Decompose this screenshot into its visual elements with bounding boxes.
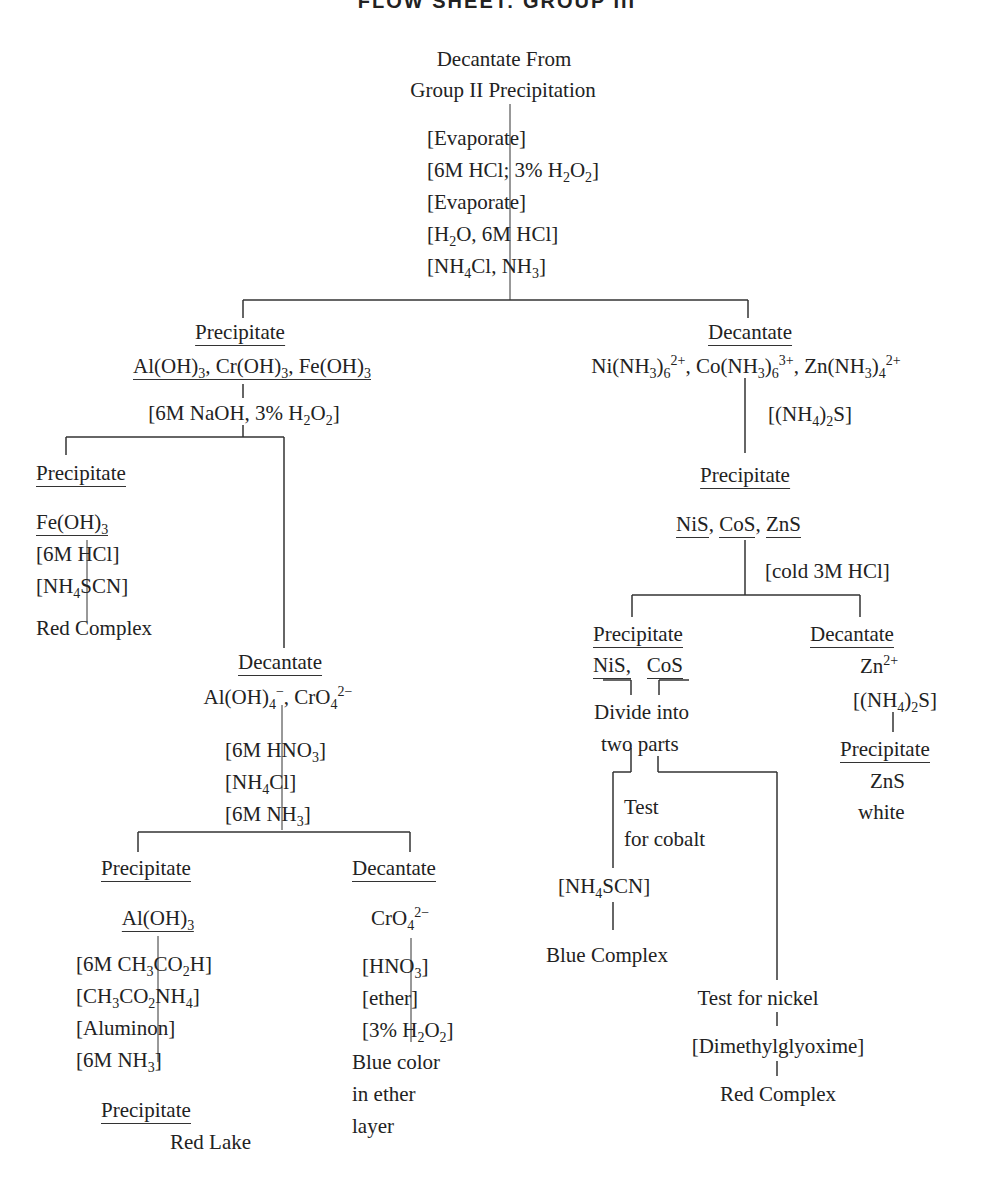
reagent-water-hcl: [H2O, 6M HCl]: [427, 222, 558, 246]
reagent-zinc-ammonium-sulfide: [(NH4)2S]: [853, 688, 937, 712]
reagent-naoh-peroxide: [6M NaOH, 3% H2O2]: [148, 401, 339, 425]
result-white: white: [858, 800, 905, 824]
result-red-complex-nickel: Red Complex: [720, 1082, 836, 1106]
species-aluminate-chromate: Al(OH)4−, CrO42−: [204, 685, 353, 709]
label-precipitate-nis-cos: Precipitate: [593, 622, 683, 648]
result-iron-red-complex: Red Complex: [36, 616, 152, 640]
species-zinc-ion: Zn2+: [860, 654, 898, 678]
species-nis-cos: NiS, CoS: [593, 653, 683, 677]
result-blue-color-3: layer: [352, 1114, 394, 1138]
label-decantate-ammines: Decantate: [708, 320, 792, 346]
label-precipitate-aluminum: Precipitate: [101, 856, 191, 882]
label-decantate-al-cr: Decantate: [238, 650, 322, 676]
reagent-cobalt-scn: [NH4SCN]: [558, 874, 650, 898]
label-precipitate-iron: Precipitate: [36, 461, 126, 487]
divide-line-1: Divide into: [594, 700, 689, 724]
label-test-cobalt-2: for cobalt: [624, 827, 705, 851]
label-precipitate-sulfides: Precipitate: [700, 463, 790, 489]
result-red-lake: Red Lake: [170, 1130, 251, 1154]
label-test-cobalt-1: Test: [624, 795, 659, 819]
start-line-1: Decantate From: [437, 47, 572, 71]
reagent-chromium-peroxide: [3% H2O2]: [362, 1018, 454, 1042]
reagent-aluminum-nh3: [6M NH3]: [76, 1048, 162, 1072]
reagent-aluminon: [Aluminon]: [76, 1016, 175, 1040]
flow-sheet: FLOW SHEET: GROUP III Decantate From Gro…: [0, 0, 994, 1183]
divide-line-2: two parts: [601, 732, 679, 756]
result-blue-color-2: in ether: [352, 1082, 416, 1106]
reagent-hno3: [6M HNO3]: [225, 738, 326, 762]
species-nis-2: NiS,: [593, 653, 631, 679]
reagent-nh4cl: [NH4Cl]: [225, 770, 296, 794]
species-ammine-complexes: Ni(NH3)62+, Co(NH3)63+, Zn(NH3)42+: [591, 354, 901, 378]
species-nis: NiS: [676, 512, 709, 538]
reagent-ammonium-acetate: [CH3CO2NH4]: [76, 984, 200, 1008]
species-sulfides: NiS, CoS, ZnS: [676, 512, 801, 536]
label-decantate-chromate: Decantate: [352, 856, 436, 882]
start-line-2: Group II Precipitation: [410, 78, 595, 102]
label-precipitate-red-lake: Precipitate: [101, 1098, 191, 1124]
species-hydroxides: Al(OH)3, Cr(OH)3, Fe(OH)3: [133, 354, 371, 380]
reagent-ammonium-sulfide: [(NH4)2S]: [768, 402, 852, 426]
reagent-ether: [ether]: [362, 986, 418, 1010]
label-precipitate-hydroxides: Precipitate: [195, 320, 285, 346]
reagent-nh4cl-nh3: [NH4Cl, NH3]: [427, 254, 546, 278]
species-cos: CoS: [719, 512, 755, 538]
species-zns: ZnS: [766, 512, 801, 538]
species-aluminum-hydroxide: Al(OH)3: [122, 906, 194, 932]
result-zns: ZnS: [870, 769, 905, 793]
species-iron-hydroxide: Fe(OH)3: [36, 510, 108, 536]
reagent-evaporate-1: [Evaporate]: [427, 126, 526, 150]
reagent-iron-scn: [NH4SCN]: [36, 574, 128, 598]
result-blue-color-1: Blue color: [352, 1050, 440, 1074]
reagent-iron-hcl: [6M HCl]: [36, 542, 119, 566]
species-chromate: CrO42−: [371, 906, 429, 930]
reagent-acetic-acid: [6M CH3CO2H]: [76, 952, 212, 976]
label-precipitate-zns: Precipitate: [840, 737, 930, 763]
reagent-cold-hcl: [cold 3M HCl]: [765, 559, 890, 583]
diagram-title: FLOW SHEET: GROUP III: [358, 0, 636, 13]
result-blue-complex: Blue Complex: [546, 943, 668, 967]
label-decantate-zinc: Decantate: [810, 622, 894, 648]
reagent-evaporate-2: [Evaporate]: [427, 190, 526, 214]
reagent-hcl-peroxide: [6M HCl; 3% H2O2]: [427, 158, 599, 182]
species-cos-2: CoS: [647, 653, 683, 679]
reagent-nh3: [6M NH3]: [225, 802, 311, 826]
label-test-nickel: Test for nickel: [698, 986, 819, 1010]
reagent-dimethylglyoxime: [Dimethylglyoxime]: [692, 1034, 865, 1058]
reagent-chromium-hno3: [HNO3]: [362, 954, 429, 978]
